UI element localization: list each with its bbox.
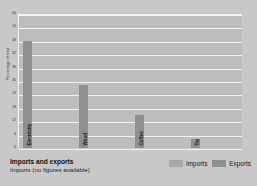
x-axis-label-wood: Wood	[84, 133, 89, 146]
y-axis-tick-0: 0	[4, 146, 16, 149]
y-axis-tick-30: 30	[4, 79, 16, 82]
legend-swatch-imports	[169, 160, 183, 167]
y-axis-tick-36: 36	[4, 66, 16, 69]
bar-chart: Percentage of total 60544842363024181260…	[0, 6, 257, 154]
chart-legend: ImportsExports	[169, 160, 251, 167]
y-axis-tick-12: 12	[4, 119, 16, 122]
bar-series-exports: ElectricityWoodCoffeeTin	[19, 15, 242, 148]
chart-figure: Percentage of total 60544842363024181260…	[0, 0, 257, 186]
legend-label-exports: Exports	[229, 160, 251, 167]
y-axis-tick-60: 60	[4, 12, 16, 15]
legend-item-imports: Imports	[169, 160, 207, 167]
y-axis-tick-48: 48	[4, 39, 16, 42]
x-axis-label-coffee: Coffee	[140, 132, 145, 146]
y-axis-tick-24: 24	[4, 93, 16, 96]
gridline	[19, 149, 242, 150]
x-axis-label-tin: Tin	[196, 139, 201, 146]
caption-title: Imports and exports	[10, 158, 150, 166]
y-axis-tick-6: 6	[4, 133, 16, 136]
x-axis-label-electricity: Electricity	[28, 124, 33, 146]
legend-item-exports: Exports	[212, 160, 251, 167]
legend-swatch-exports	[212, 160, 226, 167]
y-axis-tick-42: 42	[4, 52, 16, 55]
y-axis-tick-18: 18	[4, 106, 16, 109]
caption-subtitle: Imports (no figures available)	[10, 166, 150, 174]
legend-label-imports: Imports	[186, 160, 207, 167]
y-axis-tick-54: 54	[4, 26, 16, 29]
caption: Imports and exports Imports (no figures …	[10, 158, 150, 174]
y-axis-tick-labels: 60544842363024181260	[4, 14, 16, 148]
chart-footer: Imports and exports Imports (no figures …	[0, 156, 257, 186]
plot-area: ElectricityWoodCoffeeTin	[18, 14, 242, 148]
